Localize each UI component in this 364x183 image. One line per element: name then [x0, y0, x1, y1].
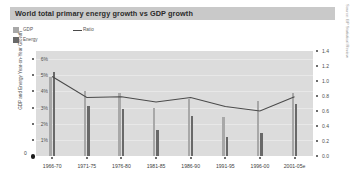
x-tick-mark: [224, 157, 226, 159]
y2-tick-mark: [316, 65, 318, 67]
zero-marker: [31, 154, 36, 159]
x-tick-mark: [51, 157, 53, 159]
x-tick-mark: [294, 157, 296, 159]
y2-tick-label: 0.2: [322, 138, 346, 144]
x-tick-mark: [190, 157, 192, 159]
legend-label-ratio: Ratio: [83, 26, 94, 34]
y2-tick-mark: [316, 110, 318, 112]
source-note: Source: BP Statistical Review: [345, 4, 350, 74]
y2-tick-mark: [316, 80, 318, 82]
x-tick-mark: [120, 157, 122, 159]
chart-root: World total primary energy growth vs GDP…: [0, 0, 364, 183]
y-tick-mark: [32, 123, 34, 125]
x-tick-mark: [155, 157, 157, 159]
y2-tick-label: 0.4: [322, 123, 346, 129]
y2-tick-label: 1.2: [322, 63, 346, 69]
y2-tick-mark: [316, 140, 318, 142]
plot-area: [36, 51, 313, 156]
legend-label-energy: Energy: [23, 36, 38, 44]
y2-tick-label: 0.6: [322, 108, 346, 114]
legend-swatch-ratio: [73, 30, 82, 31]
y2-tick-mark: [316, 155, 318, 157]
y2-tick-label: 0.8: [322, 93, 346, 99]
y-tick-mark: [32, 107, 34, 109]
y-tick-label: 4%: [22, 88, 48, 94]
y2-tick-mark: [316, 95, 318, 97]
y-tick-label: 3%: [22, 105, 48, 111]
y-tick-label: 6%: [22, 56, 48, 62]
y-axis-title: GDP and Energy Year-on-Year Growth: [18, 23, 23, 119]
zero-label: 0: [24, 150, 27, 156]
y-tick-mark: [32, 139, 34, 141]
ratio-polyline: [52, 77, 294, 112]
page-title: World total primary energy growth vs GDP…: [15, 8, 335, 20]
legend-label-gdp: GDP: [23, 26, 33, 34]
chart-legend: GDP Energy Ratio: [13, 26, 173, 46]
x-tick-mark: [86, 157, 88, 159]
x-tick-mark: [259, 157, 261, 159]
y2-tick-mark: [316, 50, 318, 52]
y-tick-label: 2%: [22, 121, 48, 127]
y2-tick-mark: [316, 125, 318, 127]
y2-tick-label: 1.0: [322, 78, 346, 84]
x-tick-label: 2001-05e: [273, 163, 317, 170]
y2-tick-label: 1.4: [322, 48, 346, 54]
y-tick-label: 5%: [22, 72, 48, 78]
y2-tick-label: 0.0: [322, 153, 346, 159]
y-tick-label: 1%: [22, 137, 48, 143]
ratio-line-series: [36, 51, 313, 156]
